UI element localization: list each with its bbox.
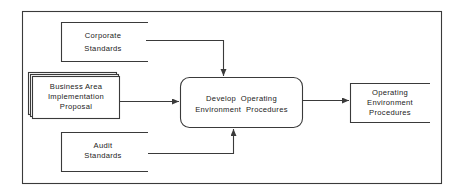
operating-environment-procedures-store[interactable]: Operating Environment Procedures: [351, 84, 431, 123]
business-area-label-line-2: Implementation: [48, 92, 104, 101]
business-area-proposal-document[interactable]: Business Area Implementation Proposal: [29, 73, 120, 119]
process-label-line-2: Environment Procedures: [195, 105, 288, 114]
audit-standards-label-line-2: Standards: [84, 151, 121, 160]
audit-standards-label-line-1: Audit: [94, 141, 113, 150]
process-label-line-1: Develop Operating: [206, 94, 277, 103]
output-label-line-3: Procedures: [369, 108, 411, 117]
flow-corporate-to-process: [146, 41, 224, 77]
flow-audit-to-process: [148, 129, 234, 154]
diagram-canvas: Corporate Standards Business Area Implem…: [0, 0, 464, 195]
corporate-standards-store[interactable]: Corporate Standards: [62, 23, 149, 62]
business-area-label-line-1: Business Area: [50, 82, 103, 91]
corporate-standards-label-line-2: Standards: [84, 44, 121, 53]
develop-operating-environment-procedures-process[interactable]: Develop Operating Environment Procedures: [181, 78, 303, 128]
output-label-line-1: Operating: [372, 88, 408, 97]
audit-standards-store[interactable]: Audit Standards: [62, 133, 149, 172]
business-area-label-line-3: Proposal: [60, 102, 92, 111]
output-label-line-2: Environment: [367, 98, 414, 107]
corporate-standards-label-line-1: Corporate: [85, 31, 121, 40]
